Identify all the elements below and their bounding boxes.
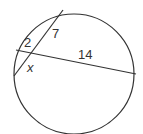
label-14: 14 — [78, 47, 92, 62]
label-x: x — [26, 60, 34, 75]
label-7: 7 — [52, 26, 59, 41]
chord-two — [16, 50, 136, 74]
label-2: 2 — [24, 35, 31, 50]
chord-one — [14, 10, 63, 76]
circle-chords-diagram: 2 7 14 x — [0, 0, 143, 134]
